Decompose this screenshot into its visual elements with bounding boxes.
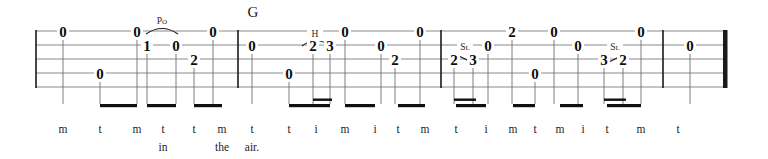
beam [194,104,222,107]
fret-number: 3 [326,39,334,54]
beam [100,104,137,107]
fret-number: 0 [574,39,582,54]
fret-number-backdrop [188,52,200,68]
fret-number: 2 [391,53,399,68]
fret-number-backdrop [482,38,494,54]
beam [513,104,535,107]
fret-number: 0 [377,39,385,54]
fret-number-backdrop [141,38,153,54]
fret-number-backdrop [207,24,219,40]
fret-number: 0 [341,25,349,40]
fret-number: 3 [469,53,477,68]
fingering-mark: m [509,124,518,136]
fret-number: 0 [248,39,256,54]
fingering-mark: i [484,124,487,136]
fret-number-backdrop [324,38,336,54]
beam [607,104,641,107]
fret-number-backdrop [414,24,426,40]
fret-number-backdrop [283,66,295,82]
fret-number-backdrop [572,38,584,54]
fret-number: 1 [143,39,151,54]
beam [345,104,375,107]
fret-number-backdrop [131,24,143,40]
fret-number: 0 [550,25,558,40]
lyric-word: the [215,142,229,154]
fret-number-backdrop [548,24,560,40]
fingering-mark: m [218,124,227,136]
fret-number: 2 [190,53,198,68]
fret-number-backdrop [448,52,460,68]
fingering-mark: m [637,124,646,136]
fingering-mark: t [98,124,101,136]
beam-sixteenth [604,99,626,101]
staff-engraving [0,0,768,159]
fingering-mark: i [581,124,584,136]
tablature-sheet: 00010020023002023020003200GPoHSlSlmtmttm… [0,0,768,159]
fingering-mark: t [161,124,164,136]
slide-line [607,55,623,63]
fret-number: 2 [508,25,516,40]
fingering-mark: t [287,124,290,136]
beam [147,104,176,107]
fret-number: 0 [416,25,424,40]
lyric-word: air. [245,142,259,154]
technique-label-backdrop [154,16,170,28]
fret-number-backdrop [307,38,319,54]
fret-number-backdrop [57,24,69,40]
tab-text-layer: 00010020023002023020003200GPoHSlSlmtmttm… [0,0,768,159]
fingering-mark: m [556,124,565,136]
fret-number-backdrop [617,52,629,68]
technique-label-backdrop [457,42,473,54]
fingering-mark: i [314,124,317,136]
fret-number-backdrop [598,52,610,68]
fret-number-backdrop [246,38,258,54]
fingering-mark: t [192,124,195,136]
fret-number-backdrop [635,24,647,40]
fret-number: 0 [96,67,104,82]
fret-number: 0 [59,25,67,40]
fingering-mark: t [676,124,679,136]
fret-number: 0 [686,39,694,54]
fingering-mark: i [373,124,376,136]
fingering-mark: t [605,124,608,136]
fret-number: 2 [619,53,627,68]
fingering-mark: m [421,124,430,136]
fret-number: 0 [531,67,539,82]
beam-sixteenth [454,99,476,101]
fret-number: 0 [133,25,141,40]
fret-number-backdrop [94,66,106,82]
fret-number-backdrop [170,38,182,54]
fingering-mark: t [396,124,399,136]
fret-number-backdrop [375,38,387,54]
fret-number-backdrop [389,52,401,68]
technique-label-sl: Sl [610,43,620,53]
fret-number: 0 [637,25,645,40]
slide-line [457,55,473,63]
beam [560,104,583,107]
fret-number: 0 [285,67,293,82]
technique-label-backdrop [307,29,323,41]
fret-number-backdrop [339,24,351,40]
fret-number-backdrop [467,52,479,68]
slur-po [146,29,178,35]
fret-number: 3 [600,53,608,68]
fret-number-backdrop [506,24,518,40]
fingering-mark: t [454,124,457,136]
technique-label-sl: Sl [460,43,470,53]
chord-label: G [248,5,259,20]
technique-label-po: Po [157,17,167,27]
beam [398,104,425,107]
fret-number-backdrop [529,66,541,82]
slur-h [302,41,330,47]
beam [289,104,330,107]
fingering-mark: m [341,124,350,136]
fret-number: 0 [209,25,217,40]
final-barline [723,30,728,88]
fingering-mark: t [533,124,536,136]
technique-label-h: H [312,30,319,40]
beam-sixteenth [313,99,332,101]
fret-number: 2 [450,53,458,68]
technique-label-backdrop [607,42,623,54]
fingering-mark: m [59,124,68,136]
fingering-mark: t [250,124,253,136]
